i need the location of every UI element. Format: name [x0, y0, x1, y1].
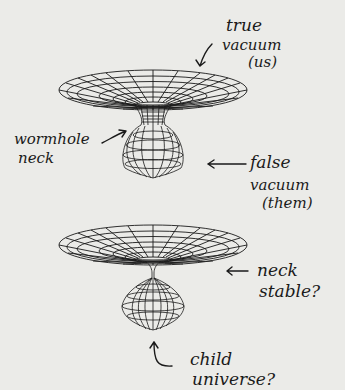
label-them: (them)	[262, 195, 313, 212]
neck-stable-arrow	[227, 267, 248, 275]
label-universe: universe?	[192, 370, 275, 389]
label-vacuum-top: vacuum	[222, 37, 281, 54]
label-stable: stable?	[259, 282, 320, 301]
top-wormhole	[59, 70, 247, 178]
label-neck-bottom: neck	[257, 261, 298, 280]
label-false: false	[250, 153, 291, 172]
label-vacuum-false: vacuum	[250, 177, 309, 194]
bottom-wormhole	[59, 225, 247, 330]
label-us: (us)	[248, 54, 277, 71]
wormhole-figure: true vacuum (us) wormhole neck false vac…	[0, 0, 345, 390]
label-wormhole: wormhole	[14, 131, 90, 148]
child-universe-arrow	[150, 342, 172, 366]
label-true: true	[226, 16, 262, 35]
true-vacuum-arrow	[196, 44, 212, 66]
label-neck: neck	[18, 150, 54, 167]
false-vacuum-arrow	[208, 160, 246, 168]
wormhole-arrow	[102, 130, 126, 143]
label-child: child	[190, 350, 232, 369]
